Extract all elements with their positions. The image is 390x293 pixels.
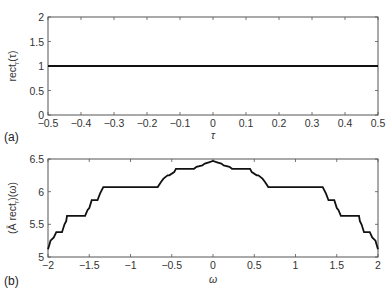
x-tick-label: 0.5 — [371, 117, 386, 129]
x-tick-label: 2 — [375, 259, 381, 271]
x-tick-label: −1.5 — [79, 259, 100, 271]
panel-a-label: (a) — [4, 130, 19, 144]
x-tick-label: −0.2 — [137, 117, 158, 129]
x-tick-label: −1 — [125, 259, 137, 271]
panel-b-y-axis-label: (Â rectr)(ω) — [6, 182, 20, 234]
x-tick-label: −0.3 — [104, 117, 125, 129]
x-tick-label: 0.5 — [247, 259, 262, 271]
x-tick-label: 0.4 — [338, 117, 353, 129]
x-tick-label: 0 — [210, 259, 216, 271]
x-tick-label: 1.5 — [329, 259, 344, 271]
y-tick-label: 5.5 — [29, 218, 44, 230]
x-tick-label: −0.4 — [71, 117, 92, 129]
panel-b-y-tick-labels: 55.566.5 — [29, 153, 44, 263]
panel-b-staircase-curve — [48, 161, 378, 249]
x-tick-label: −0.5 — [161, 259, 182, 271]
x-tick-label: −0.1 — [170, 117, 191, 129]
panel-a-x-tick-labels: −0.5−0.4−0.3−0.2−0.100.10.20.30.40.5 — [38, 117, 386, 129]
panel-b-x-tick-labels: −2−1.5−1−0.500.511.52 — [42, 259, 381, 271]
x-tick-label: 0.1 — [239, 117, 254, 129]
y-tick-label: 0 — [38, 109, 44, 121]
y-tick-label: 1.5 — [29, 36, 44, 48]
panel-b-axes-frame — [48, 159, 378, 257]
y-tick-label: 0.5 — [29, 85, 44, 97]
y-tick-label: 6.5 — [29, 153, 44, 165]
chart-figure: −0.5−0.4−0.3−0.2−0.100.10.20.30.40.5 00.… — [0, 0, 390, 293]
panel-a-plot: −0.5−0.4−0.3−0.2−0.100.10.20.30.40.5 00.… — [4, 11, 385, 144]
panel-b-x-axis-label: ω — [209, 273, 217, 285]
y-tick-label: 6 — [38, 186, 44, 198]
panel-b-ticks — [48, 159, 378, 257]
y-tick-label: 1 — [38, 60, 44, 72]
panel-a-y-axis-label: rectr(τ) — [6, 50, 20, 81]
panel-a-y-tick-labels: 00.511.52 — [29, 11, 44, 121]
y-tick-label: 5 — [38, 251, 44, 263]
panel-a-x-axis-label: τ — [211, 129, 216, 141]
y-tick-label: 2 — [38, 11, 44, 23]
x-tick-label: 0 — [210, 117, 216, 129]
panel-b-plot: −2−1.5−1−0.500.511.52 55.566.5 ω (Â rect… — [4, 153, 381, 288]
x-tick-label: 1 — [293, 259, 299, 271]
panel-b-label: (b) — [4, 274, 19, 288]
x-tick-label: 0.3 — [305, 117, 320, 129]
x-tick-label: 0.2 — [272, 117, 287, 129]
